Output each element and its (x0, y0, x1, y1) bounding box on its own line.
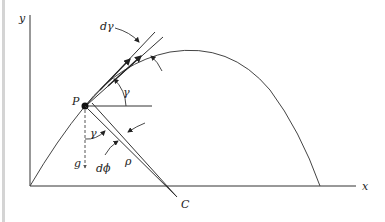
gravity-label: g (74, 157, 81, 170)
d-gamma-arc (115, 28, 139, 42)
rho-label: ρ (124, 155, 132, 168)
d-phi-arrow-left (105, 141, 118, 155)
d-gamma-label: dγ (100, 20, 114, 33)
radius-line-2 (92, 103, 177, 197)
radius-line-1 (85, 106, 177, 197)
gamma-label-top: γ (123, 86, 130, 99)
gamma-label-bottom: γ (90, 127, 97, 140)
x-axis-label: x (362, 180, 369, 193)
d-phi-label: dϕ (96, 162, 111, 175)
point-p-label: P (71, 95, 80, 108)
d-phi-arrow-right (128, 123, 145, 132)
center-c-label: C (181, 198, 190, 211)
trajectory-diagram: y x γ dγ P C g γ dϕ ρ (0, 0, 385, 222)
y-axis-label: y (18, 12, 26, 25)
d-gamma-arc-2 (151, 56, 162, 71)
velocity-arrow-2 (108, 56, 141, 86)
